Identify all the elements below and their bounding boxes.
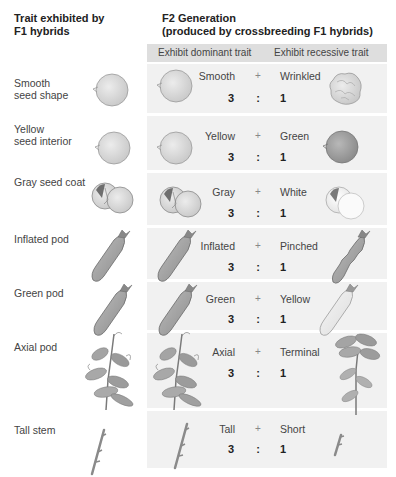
dominant-count: 3 — [228, 367, 234, 379]
axial-pod-plant-icon — [152, 330, 206, 410]
dominant-trait-label: Green — [175, 293, 235, 305]
recessive-trait-label: Yellow — [280, 293, 310, 305]
plus-sign: + — [253, 186, 263, 197]
dominant-trait-label: Axial — [175, 346, 235, 358]
inflated-pod-icon — [90, 228, 134, 286]
recessive-trait-label: Wrinkled — [280, 70, 321, 82]
recessive-count: 1 — [280, 313, 286, 325]
axial-pod-plant-icon — [84, 330, 138, 415]
dominant-trait-label: Yellow — [175, 130, 235, 142]
trait-label-seed-interior: Yellow seed interior — [14, 123, 89, 147]
dominant-count: 3 — [228, 207, 234, 219]
trait-label-stem-length: Tall stem — [14, 424, 89, 436]
white-seed-coat-icon — [324, 182, 372, 222]
green-seed-icon — [322, 127, 362, 167]
dominant-count: 3 — [228, 443, 234, 455]
f1-column-title: Trait exhibited by F1 hybrids — [14, 12, 134, 38]
trait-label-pod-shape: Inflated pod — [14, 233, 89, 245]
recessive-count: 1 — [280, 92, 286, 104]
recessive-trait-label: Green — [280, 130, 309, 142]
smooth-seed-icon — [92, 70, 132, 110]
dominant-count: 3 — [228, 151, 234, 163]
ratio-colon: : — [253, 443, 263, 455]
recessive-count: 1 — [280, 207, 286, 219]
f2-column-title: F2 Generation (produced by crossbreeding… — [162, 12, 392, 38]
trait-label-pod-color: Green pod — [14, 287, 89, 299]
ratio-colon: : — [253, 151, 263, 163]
trait-label-seed-shape: Smooth seed shape — [14, 77, 89, 101]
trait-label-line1: Tall stem — [14, 424, 89, 436]
plus-sign: + — [253, 240, 263, 251]
terminal-pod-plant-icon — [332, 330, 386, 415]
recessive-trait-label: Short — [280, 423, 305, 435]
recessive-count: 1 — [280, 151, 286, 163]
f1-title-line2: F1 hybrids — [14, 25, 134, 38]
trait-label-seed-coat: Gray seed coat — [14, 176, 89, 188]
plus-sign: + — [253, 423, 263, 434]
ratio-colon: : — [253, 261, 263, 273]
plus-sign: + — [253, 293, 263, 304]
recessive-count: 1 — [280, 367, 286, 379]
recessive-trait-label: White — [280, 186, 307, 198]
recessive-column-header: Exhibit recessive trait — [274, 47, 368, 58]
ratio-colon: : — [253, 367, 263, 379]
ratio-colon: : — [253, 92, 263, 104]
inflated-pod-icon — [156, 228, 200, 286]
trait-label-line1: Green pod — [14, 287, 89, 299]
dominant-trait-label: Tall — [175, 423, 235, 435]
f2-column-header-bar: Exhibit dominant trait Exhibit recessive… — [147, 44, 387, 62]
trait-label-line1: Inflated pod — [14, 233, 89, 245]
gray-seed-coat-icon — [90, 178, 138, 218]
trait-label-flower-position: Axial pod — [14, 341, 89, 353]
dominant-column-header: Exhibit dominant trait — [158, 47, 251, 58]
dominant-count: 3 — [228, 313, 234, 325]
trait-label-line2: seed interior — [14, 135, 89, 147]
dominant-trait-label: Gray — [175, 186, 235, 198]
f2-title-line2: (produced by crossbreeding F1 hybrids) — [162, 25, 392, 38]
pinched-pod-icon — [330, 228, 374, 286]
dominant-trait-label: Inflated — [175, 240, 235, 252]
plus-sign: + — [253, 346, 263, 357]
trait-label-line1: Smooth — [14, 77, 89, 89]
short-stem-icon — [333, 433, 347, 459]
recessive-trait-label: Terminal — [280, 346, 320, 358]
dominant-count: 3 — [228, 92, 234, 104]
trait-label-line1: Axial pod — [14, 341, 89, 353]
recessive-count: 1 — [280, 443, 286, 455]
wrinkled-seed-icon — [325, 68, 365, 108]
trait-label-line1: Yellow — [14, 123, 89, 135]
plus-sign: + — [253, 130, 263, 141]
trait-label-line2: seed shape — [14, 89, 89, 101]
ratio-colon: : — [253, 207, 263, 219]
plus-sign: + — [253, 70, 263, 81]
trait-label-line1: Gray seed coat — [14, 176, 89, 188]
f1-title-line1: Trait exhibited by — [14, 12, 134, 25]
dominant-count: 3 — [228, 261, 234, 273]
recessive-trait-label: Pinched — [280, 240, 318, 252]
recessive-count: 1 — [280, 261, 286, 273]
yellow-seed-icon — [94, 128, 134, 168]
ratio-colon: : — [253, 313, 263, 325]
tall-stem-icon — [90, 428, 110, 477]
f2-title-line1: F2 Generation — [162, 12, 392, 25]
dominant-trait-label: Smooth — [175, 70, 235, 82]
